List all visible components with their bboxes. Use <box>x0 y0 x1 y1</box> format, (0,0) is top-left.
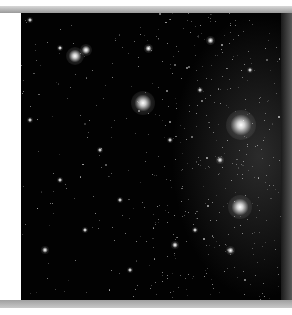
faint-star <box>156 36 157 37</box>
faint-star <box>197 80 198 81</box>
faint-star <box>197 218 198 219</box>
faint-star <box>195 55 196 56</box>
faint-star <box>60 29 61 30</box>
faint-star <box>68 280 69 281</box>
faint-star <box>206 78 207 79</box>
faint-star <box>167 222 169 224</box>
faint-star <box>25 224 26 225</box>
faint-star <box>265 113 266 114</box>
bright-star <box>80 44 92 56</box>
bottom-border-bar <box>0 300 292 308</box>
faint-star <box>279 160 280 161</box>
faint-star <box>188 199 189 200</box>
faint-star <box>53 173 54 174</box>
faint-star <box>80 176 82 178</box>
faint-star <box>93 196 95 198</box>
faint-star <box>211 65 212 66</box>
faint-star <box>227 68 228 69</box>
faint-star <box>258 177 260 179</box>
faint-star <box>186 67 188 69</box>
faint-star <box>216 195 217 196</box>
faint-star <box>168 106 169 107</box>
bright-star <box>57 177 63 183</box>
faint-star <box>230 32 231 33</box>
bright-star <box>41 246 48 253</box>
faint-star <box>256 217 257 218</box>
faint-star <box>67 98 68 99</box>
faint-star <box>170 68 171 69</box>
faint-star <box>153 247 154 248</box>
bright-star <box>144 44 153 53</box>
faint-star <box>59 154 60 155</box>
faint-star <box>146 241 147 242</box>
faint-star <box>262 246 263 247</box>
faint-star <box>176 103 177 104</box>
bright-star <box>228 195 252 219</box>
faint-star <box>180 125 181 126</box>
faint-star <box>259 98 260 99</box>
faint-star <box>125 233 126 234</box>
faint-star <box>229 79 230 80</box>
faint-star <box>254 70 255 71</box>
faint-star <box>146 152 147 153</box>
bright-star <box>192 227 198 233</box>
faint-star <box>240 225 241 226</box>
faint-star <box>273 157 274 158</box>
faint-star <box>154 258 156 260</box>
faint-star <box>266 175 267 176</box>
faint-star <box>122 215 123 216</box>
faint-star <box>115 38 116 39</box>
faint-star <box>219 173 220 174</box>
faint-star <box>230 23 231 24</box>
faint-star <box>105 85 106 86</box>
faint-star <box>164 137 165 138</box>
faint-star <box>138 66 139 67</box>
faint-star <box>277 61 278 62</box>
faint-star <box>162 61 163 62</box>
faint-star <box>210 18 211 19</box>
faint-star <box>35 50 36 51</box>
faint-star <box>214 102 215 103</box>
faint-star <box>23 186 24 187</box>
faint-star <box>53 191 54 192</box>
faint-star <box>95 213 96 214</box>
faint-star <box>159 205 160 206</box>
faint-star <box>208 254 209 255</box>
faint-star <box>96 105 97 106</box>
bright-star <box>197 87 203 93</box>
faint-star <box>238 35 239 36</box>
faint-star <box>36 60 37 61</box>
faint-star <box>175 136 177 138</box>
faint-star <box>145 161 146 162</box>
faint-star <box>172 297 173 298</box>
faint-star <box>134 41 135 42</box>
faint-star <box>74 198 75 199</box>
faint-star <box>64 291 65 292</box>
faint-star <box>259 102 260 103</box>
faint-star <box>216 140 217 141</box>
faint-star <box>166 179 167 180</box>
faint-star <box>80 115 81 116</box>
faint-star <box>178 287 179 288</box>
faint-star <box>47 278 48 279</box>
faint-star <box>244 279 246 281</box>
faint-star <box>70 87 71 88</box>
faint-star <box>228 234 229 235</box>
faint-star <box>71 25 72 26</box>
faint-star <box>36 292 37 293</box>
faint-star <box>37 208 38 209</box>
faint-star <box>165 22 167 24</box>
faint-star <box>182 186 183 187</box>
faint-star <box>33 73 35 75</box>
faint-star <box>188 274 189 275</box>
faint-star <box>138 57 139 58</box>
faint-star <box>159 13 161 15</box>
bright-star <box>27 117 33 123</box>
bright-star <box>57 45 63 51</box>
faint-star <box>30 106 31 107</box>
faint-star <box>41 191 43 193</box>
faint-star <box>155 282 156 283</box>
faint-star <box>174 64 176 66</box>
faint-star <box>75 74 76 75</box>
faint-star <box>278 116 280 118</box>
